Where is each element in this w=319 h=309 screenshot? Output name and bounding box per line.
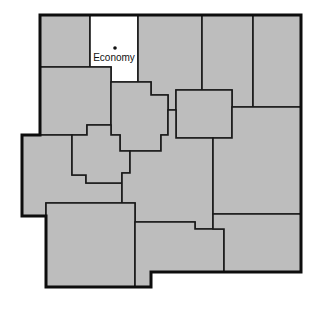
city-label: Economy (93, 52, 135, 63)
counties (22, 15, 301, 287)
county-center-right-box[interactable] (176, 90, 232, 138)
county-top-left[interactable] (40, 15, 90, 67)
county-bottom-left[interactable] (46, 203, 135, 287)
county-top-right-b[interactable] (253, 15, 301, 107)
city-dot-icon (113, 46, 117, 50)
county-map: Economy (0, 0, 319, 309)
county-bottom-middle[interactable] (135, 222, 224, 287)
county-bottom-right[interactable] (213, 214, 301, 272)
